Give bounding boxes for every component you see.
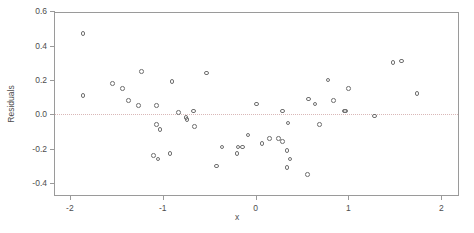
data-point [343,109,348,114]
x-axis-tick [163,195,164,200]
plot-frame: -0.4-0.20.00.20.40.6-2-1012 [54,12,459,196]
data-point [399,59,404,64]
data-point [313,102,318,107]
y-axis-title-text: Residuals [6,85,16,122]
data-point [240,145,245,150]
y-axis-title: Residuals [2,0,20,208]
data-point [280,109,285,114]
data-point [126,98,131,103]
data-point [288,157,293,162]
data-point [156,157,161,162]
data-point [136,103,141,108]
residual-plot: Residuals x -0.4-0.20.00.20.40.6-2-1012 [0,0,474,233]
data-point [317,122,322,127]
y-axis-tick-label: -0.4 [32,178,47,188]
data-point [214,164,219,169]
data-point [267,136,272,141]
data-point-layer [55,13,458,195]
data-point [170,79,175,84]
data-point [120,86,125,91]
data-point [192,124,197,129]
y-axis-tick-label: 0.2 [35,75,47,85]
data-point [110,81,115,86]
x-axis-tick-label: 0 [253,203,258,213]
data-point [154,122,159,127]
data-point [220,145,225,150]
x-axis-tick [256,195,257,200]
data-point [176,110,181,115]
x-axis-title-text: x [235,212,239,222]
x-axis-tick-label: -2 [66,203,74,213]
data-point [306,97,311,102]
data-point [254,102,259,107]
data-point [151,153,156,158]
data-point [185,117,190,122]
data-point [81,93,86,98]
data-point [139,69,144,74]
data-point [285,148,290,153]
data-point [260,141,265,146]
x-axis-tick [441,195,442,200]
x-axis-tick-label: -1 [159,203,167,213]
data-point [246,133,251,138]
data-point [285,165,290,170]
data-point [326,78,331,83]
data-point [204,71,209,76]
x-axis-tick-label: 2 [439,203,444,213]
y-axis-tick-label: 0.4 [35,41,47,51]
data-point [235,151,240,156]
x-axis-tick-label: 1 [346,203,351,213]
y-axis-tick-label: 0.0 [35,109,47,119]
x-axis-title: x [0,212,474,222]
data-point [191,109,196,114]
y-axis-tick-label: -0.2 [32,144,47,154]
y-axis-tick-label: 0.6 [35,6,47,16]
x-axis-tick [70,195,71,200]
data-point [280,139,285,144]
data-point [331,98,336,103]
data-point [346,86,351,91]
data-point [305,172,310,177]
data-point [372,114,377,119]
data-point [415,91,420,96]
x-axis-tick [348,195,349,200]
data-point [391,60,396,65]
data-point [158,127,163,132]
data-point [286,121,291,126]
data-point [81,31,86,36]
data-point [168,151,173,156]
data-point [154,103,159,108]
